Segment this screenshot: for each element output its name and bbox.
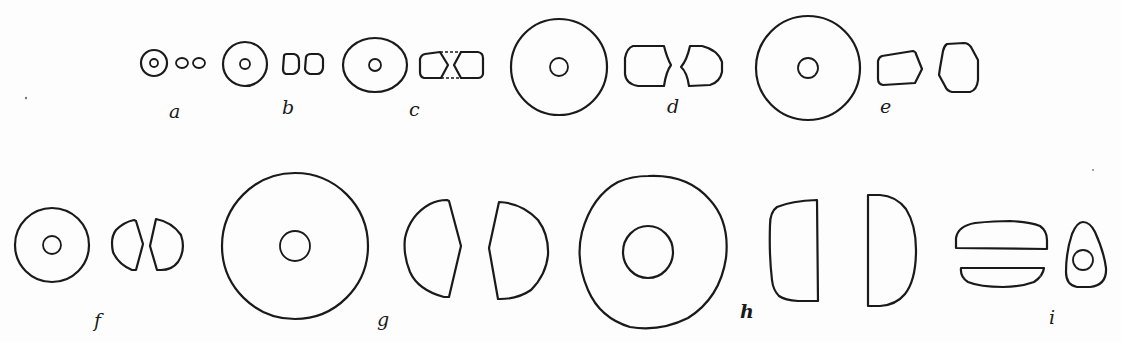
bead-profile-view <box>939 43 978 92</box>
label-a: a <box>169 100 180 122</box>
label-g: g <box>377 308 389 330</box>
bead-face-outline <box>1066 222 1106 287</box>
bead-face-outline <box>580 176 727 328</box>
labels-layer: a b c d e f g h i <box>92 95 1055 331</box>
bead-profile-view <box>681 46 722 86</box>
bead-profile-view <box>625 46 671 86</box>
bead-profile-view <box>961 268 1044 287</box>
bead-profile-view <box>878 51 922 85</box>
label-b: b <box>282 96 294 118</box>
bead-face-outline <box>15 208 89 282</box>
bead-profile-view <box>150 219 183 270</box>
bead-profile-view <box>112 220 143 270</box>
bead-profile-view <box>420 52 448 78</box>
perforation-hole <box>1073 250 1093 270</box>
label-c: c <box>409 98 420 120</box>
bead-face-outline <box>511 19 607 115</box>
bead-profile-view <box>770 200 818 301</box>
bead-profile-view <box>454 52 483 78</box>
bead-i <box>956 221 1106 287</box>
bead-profile-view <box>868 195 916 306</box>
paper-speck <box>25 97 27 99</box>
perforation-hole <box>550 58 568 76</box>
bead-face-outline <box>343 38 407 92</box>
label-e: e <box>880 95 891 117</box>
perforation-hole <box>798 58 818 78</box>
bead-profile-view <box>176 58 188 68</box>
label-h: h <box>740 300 754 322</box>
bead-profile-view <box>193 58 205 68</box>
paper-speck <box>1092 169 1094 171</box>
bead-profile-view <box>305 54 323 74</box>
label-d: d <box>667 95 679 117</box>
bead-face-outline <box>756 16 860 120</box>
specks-layer <box>25 97 1094 277</box>
perforation-hole <box>150 59 158 67</box>
bead-g <box>222 173 548 319</box>
bead-b <box>223 42 323 86</box>
label-f: f <box>92 309 104 331</box>
perforation-hole <box>369 59 381 71</box>
bead-f <box>15 208 183 282</box>
bead-figure-canvas: a b c d e f g h i <box>0 0 1121 342</box>
bead-profile-view <box>956 221 1047 249</box>
bead-d <box>511 19 722 115</box>
bead-profile-view <box>489 202 548 299</box>
bead-a <box>141 50 205 76</box>
bead-face-outline <box>223 42 267 86</box>
paper-speck <box>1039 275 1041 277</box>
label-i: i <box>1049 306 1055 328</box>
items-layer <box>15 16 1106 328</box>
perforation-hole <box>240 59 250 69</box>
bead-c <box>343 38 483 92</box>
bead-profile-view <box>405 200 461 297</box>
bead-face-outline <box>141 50 167 76</box>
perforation-hole <box>43 236 61 254</box>
perforation-hole <box>280 231 310 261</box>
perforation-hole <box>623 226 673 278</box>
bead-face-outline <box>222 173 368 319</box>
bead-profile-view <box>283 54 299 74</box>
bead-e <box>756 16 978 120</box>
